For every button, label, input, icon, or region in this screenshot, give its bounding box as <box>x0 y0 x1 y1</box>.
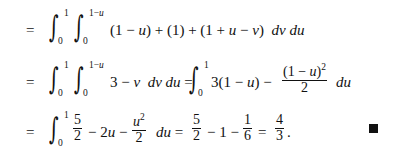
term: 3(1 − u) − <box>211 74 272 91</box>
lower-limit: 0 <box>58 138 63 148</box>
equation-line-1: = ∫ 1 0 ∫ 1−u 0 (1 − u) + (1) + (1 + u −… <box>0 0 393 50</box>
equals-sign: = <box>26 74 34 91</box>
lower-limit: 0 <box>83 36 88 46</box>
integrand: (1 − u) + (1) + (1 + u − v) dv du <box>110 22 304 39</box>
upper-limit: 1−u <box>89 8 104 18</box>
lower-limit: 0 <box>58 88 63 98</box>
numerator: 5 <box>73 113 82 128</box>
denominator: 6 <box>243 129 252 144</box>
equals-sign: = <box>26 124 34 141</box>
fraction: (1 − u)2 2 <box>282 63 327 95</box>
term: − 2u − <box>88 124 127 141</box>
equals-sign: = <box>26 22 34 39</box>
upper-limit: 1−u <box>89 60 104 70</box>
fraction: u2 2 <box>132 113 146 145</box>
denominator: 2 <box>134 131 143 146</box>
integrand: 3 − v dv du = <box>110 74 193 91</box>
lower-limit: 0 <box>83 88 88 98</box>
numerator: 1 <box>243 113 252 128</box>
equation-line-2: = ∫ 1 0 ∫ 1−u 0 3 − v dv du = ∫ 1 0 3(1 … <box>0 52 393 102</box>
fraction: 4 3 <box>275 113 284 143</box>
numerator: u2 <box>132 113 146 130</box>
upper-limit: 1 <box>64 8 69 18</box>
numerator: (1 − u)2 <box>282 63 327 80</box>
denominator: 2 <box>192 129 201 144</box>
upper-limit: 1 <box>204 60 209 70</box>
fraction: 5 2 <box>192 113 201 143</box>
qed-square-icon <box>369 124 378 133</box>
equation-line-3: = ∫ 1 0 5 2 − 2u − u2 2 du = 5 2 − 1 − 1… <box>0 102 393 152</box>
lower-limit: 0 <box>58 36 63 46</box>
equals-sign: = <box>258 124 266 141</box>
denominator: 3 <box>275 129 284 144</box>
fraction: 1 6 <box>243 113 252 143</box>
fraction: 5 2 <box>73 113 82 143</box>
numerator: 4 <box>275 113 284 128</box>
numerator: 5 <box>192 113 201 128</box>
period: . <box>287 124 291 141</box>
term: − 1 − <box>207 124 239 141</box>
upper-limit: 1 <box>64 110 69 120</box>
differential: du = <box>156 124 183 141</box>
denominator: 2 <box>73 129 82 144</box>
lower-limit: 0 <box>198 88 203 98</box>
differential: du <box>336 74 351 91</box>
denominator: 2 <box>300 81 309 96</box>
upper-limit: 1 <box>64 60 69 70</box>
